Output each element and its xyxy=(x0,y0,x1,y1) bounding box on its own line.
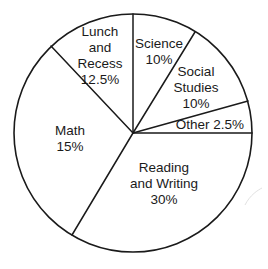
math-label: Math xyxy=(55,123,85,138)
social-label-line2: Studies xyxy=(173,80,218,95)
pie-chart: Lunch and Recess 12.5% Science 10% Socia… xyxy=(0,0,268,269)
slice-label-other: Other 2.5% xyxy=(176,117,244,132)
lunch-label-line2: and xyxy=(89,40,112,55)
slice-label-math: Math 15% xyxy=(55,123,85,154)
other-label: Other 2.5% xyxy=(176,117,244,132)
science-label: Science xyxy=(135,36,183,51)
social-label-line1: Social xyxy=(178,64,215,79)
social-value: 10% xyxy=(182,96,209,111)
math-value: 15% xyxy=(56,139,83,154)
lunch-value: 12.5% xyxy=(81,72,119,87)
reading-label-line2: and Writing xyxy=(130,176,198,191)
reading-label-line1: Reading xyxy=(139,160,189,175)
pie-chart-svg: Lunch and Recess 12.5% Science 10% Socia… xyxy=(0,0,268,269)
lunch-label-line1: Lunch xyxy=(82,24,119,39)
slice-label-lunch: Lunch and Recess 12.5% xyxy=(77,24,122,87)
reading-value: 30% xyxy=(150,192,177,207)
science-value: 10% xyxy=(145,52,172,67)
lunch-label-line3: Recess xyxy=(77,56,122,71)
